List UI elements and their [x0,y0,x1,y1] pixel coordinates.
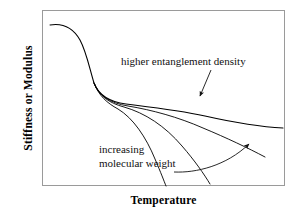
x-axis-label: Temperature [42,194,285,206]
figure-container: Stiffness or Modulus Temperature higher … [0,0,301,217]
annotation-molecular-weight: increasing molecular weight [99,142,176,170]
molecular-weight-arrow [174,144,249,172]
curve-low-molecular-weight [94,83,166,186]
curve-layer [0,0,301,217]
y-axis-label: Stiffness or Modulus [22,8,34,188]
annotation-entanglement-density: higher entanglement density [121,54,246,68]
entanglement-arrow [200,70,211,96]
annotation-molecular-weight-line1: increasing [99,142,176,156]
annotation-molecular-weight-line2: molecular weight [99,156,176,170]
curve-highest-entanglement [50,24,283,128]
